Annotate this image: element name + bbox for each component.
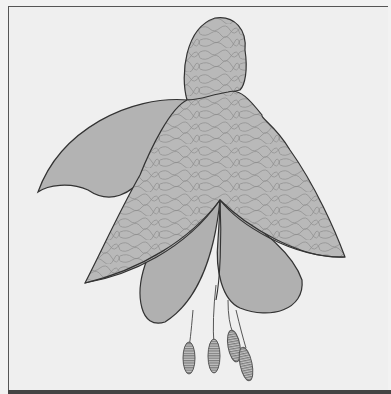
fuchsia-illustration [0,0,391,394]
anthers [183,329,255,382]
bud [184,18,246,100]
